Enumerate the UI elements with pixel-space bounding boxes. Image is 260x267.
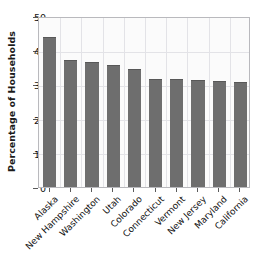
bar xyxy=(170,79,183,187)
x-axis-tick-mark xyxy=(218,188,219,192)
bar xyxy=(107,65,120,187)
x-axis-tick-mark xyxy=(176,188,177,192)
bar xyxy=(85,62,98,187)
bar xyxy=(64,60,77,187)
bar-chart-figure: Percentage of Households 01020304050 Ala… xyxy=(0,0,260,267)
x-axis-tick-mark xyxy=(91,188,92,192)
bar xyxy=(213,81,226,187)
bar xyxy=(234,82,247,187)
y-axis-title: Percentage of Households xyxy=(6,12,17,192)
x-axis-tick-mark xyxy=(49,188,50,192)
plot-area xyxy=(38,17,250,188)
bar xyxy=(191,80,204,187)
bar xyxy=(149,79,162,187)
chart-title-cropped xyxy=(0,0,260,5)
x-axis-tick-mark xyxy=(133,188,134,192)
bar-series xyxy=(39,18,249,187)
x-axis-tick-mark xyxy=(70,188,71,192)
x-axis-tick-mark xyxy=(112,188,113,192)
bar xyxy=(128,69,141,187)
x-axis-tick-mark xyxy=(239,188,240,192)
bar xyxy=(43,37,56,187)
x-axis-tick-mark xyxy=(155,188,156,192)
x-axis-tick-mark xyxy=(197,188,198,192)
